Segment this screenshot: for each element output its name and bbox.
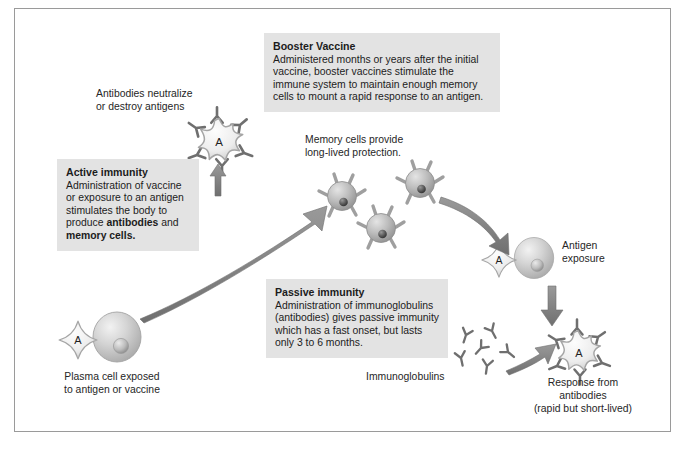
callout-passive-heading: Passive immunity	[275, 286, 439, 299]
label-antibodies-neutralize: Antibodies neutralize or destroy antigen…	[96, 88, 236, 114]
label-response-from-antibodies: Response from antibodies (rapid but shor…	[508, 377, 658, 415]
callout-passive-body: Administration of immunoglobulins (antib…	[275, 300, 439, 350]
active-body-bold-memory-cells: memory cells.	[66, 230, 135, 241]
immunity-diagram-figure: A A A	[0, 0, 686, 451]
label-memory-cells: Memory cells provide long-lived protecti…	[305, 134, 445, 160]
callout-active-immunity: Active immunity Administration of vaccin…	[57, 159, 199, 251]
callout-passive-immunity: Passive immunity Administration of immun…	[266, 279, 448, 358]
callout-booster-body: Administered months or years after the i…	[273, 54, 491, 104]
active-body-bold-antibodies: antibodies	[106, 217, 158, 228]
label-plasma-cell: Plasma cell exposed to antigen or vaccin…	[42, 371, 182, 397]
callout-active-body: Administration of vaccine or exposure to…	[66, 180, 190, 243]
label-antigen-exposure: Antigen exposure	[562, 240, 628, 266]
active-body-part2: and	[158, 217, 178, 228]
callout-booster-heading: Booster Vaccine	[273, 40, 491, 53]
callout-booster-vaccine: Booster Vaccine Administered months or y…	[264, 33, 500, 112]
label-immunoglobulins: Immunoglobulins	[366, 371, 466, 384]
callout-active-heading: Active immunity	[66, 166, 190, 179]
